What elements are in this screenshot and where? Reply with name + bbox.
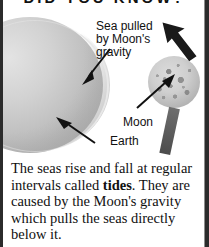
label-earth: Earth xyxy=(110,135,139,148)
frame-rule-right xyxy=(205,0,209,247)
body-copy: The seas rise and fall at regular interv… xyxy=(11,160,201,243)
tides-diagram: Sea pulled by Moon's gravity Earth Moon xyxy=(3,8,205,160)
bold-arrow-icon xyxy=(161,16,203,62)
body-term-tides: tides xyxy=(103,177,132,193)
shadow-bar xyxy=(159,107,180,155)
label-moon: Moon xyxy=(123,116,153,129)
label-sea-pulled: Sea pulled by Moon's gravity xyxy=(96,20,153,59)
leader-arrow-icon xyxy=(135,72,177,110)
leader-arrow-icon xyxy=(53,116,97,146)
body-line-2c: . xyxy=(132,177,136,193)
did-you-know-card: DID YOU KNOW? Sea pulled by Moon's gravi… xyxy=(0,0,209,247)
body-line-1: The seas rise and fall at xyxy=(11,160,147,176)
banner-title: DID YOU KNOW? xyxy=(4,0,205,7)
